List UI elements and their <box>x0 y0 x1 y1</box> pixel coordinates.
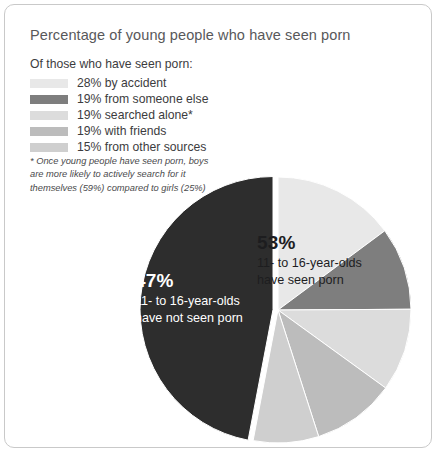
legend-swatch <box>30 143 68 152</box>
legend-item-other-sources: 15% from other sources <box>30 140 280 155</box>
pie-chart: 53% 11- to 16-year-olds have seen porn 4… <box>133 165 432 448</box>
legend-item-with-friends: 19% with friends <box>30 124 280 139</box>
legend-swatch <box>30 95 68 104</box>
legend-item-label: 28% by accident <box>77 76 166 91</box>
legend-swatch <box>30 127 68 136</box>
legend-item-label: 19% from someone else <box>77 92 208 107</box>
pie-slice-not-seen-porn <box>140 177 273 441</box>
legend-item-label: 19% with friends <box>77 124 166 139</box>
legend-swatch <box>30 79 68 88</box>
legend-item-label: 19% searched alone* <box>77 108 193 123</box>
legend-item-searched-alone: 19% searched alone* <box>30 108 280 123</box>
pie-slice-group <box>140 177 411 443</box>
legend-swatch <box>30 111 68 120</box>
page-title: Percentage of young people who have seen… <box>30 27 351 43</box>
pie-chart-svg <box>133 165 432 448</box>
legend-heading: Of those who have seen porn: <box>30 57 280 71</box>
legend-item-label: 15% from other sources <box>77 140 206 155</box>
legend-item-from-someone-else: 19% from someone else <box>30 92 280 107</box>
legend-item-by-accident: 28% by accident <box>30 76 280 91</box>
chart-card: Percentage of young people who have seen… <box>4 4 432 448</box>
chart-legend: Of those who have seen porn: 28% by acci… <box>30 57 280 156</box>
